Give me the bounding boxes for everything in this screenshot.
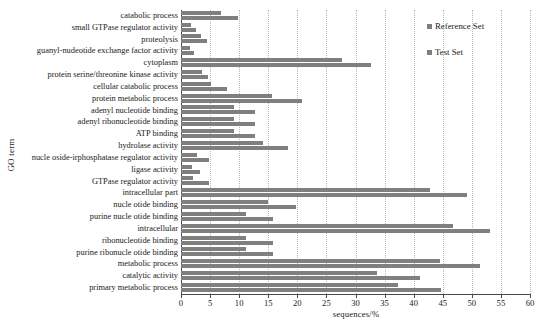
bar-test-set (181, 28, 196, 32)
bar-reference-set (181, 247, 246, 251)
bar-reference-set (181, 200, 268, 204)
category-label: cellular catabolic process (3, 82, 181, 91)
bar-test-set (181, 264, 480, 268)
category-label: catabolic process (3, 11, 181, 20)
bar-reference-set (181, 212, 246, 216)
x-axis-tick-label: 60 (519, 298, 539, 308)
x-axis-title: sequences/% (181, 309, 531, 319)
bar-reference-set (181, 117, 234, 121)
bar-reference-set (181, 34, 201, 38)
x-axis-tick-label: 40 (403, 298, 425, 308)
category-label: guanyl-nudeotide exchange factor activit… (3, 46, 181, 55)
bar-test-set (181, 276, 420, 280)
bar-reference-set (181, 58, 342, 62)
x-axis-tick-label: 55 (490, 298, 512, 308)
bar-reference-set (181, 283, 398, 287)
bar-test-set (181, 241, 273, 245)
bar-reference-set (181, 129, 234, 133)
bar-reference-set (181, 11, 221, 15)
bar-group (181, 82, 530, 94)
bar-reference-set (181, 82, 211, 86)
x-axis-tick-label: 0 (170, 298, 192, 308)
category-label: nucle oside-irphosphatase regulator acti… (3, 153, 181, 162)
x-axis-tick-label: 15 (257, 298, 279, 308)
x-axis-tick-label: 20 (286, 298, 308, 308)
bar-reference-set (181, 23, 191, 27)
bar-reference-set (181, 94, 272, 98)
x-axis-tick-label: 50 (461, 298, 483, 308)
bar-reference-set (181, 176, 193, 180)
bar-group (181, 212, 530, 224)
category-label: ribonucleotide binding (3, 236, 181, 245)
bar-test-set (181, 193, 467, 197)
bar-group (181, 129, 530, 141)
bar-group (181, 176, 530, 188)
bar-reference-set (181, 141, 263, 145)
legend-item-reference-set: Reference Set (427, 22, 484, 31)
bar-group (181, 236, 530, 248)
category-label: protein serine/threonine kinase activity (3, 70, 181, 79)
bar-test-set (181, 99, 302, 103)
bar-group (181, 153, 530, 165)
legend-swatch-icon (427, 50, 432, 55)
category-label: adenyl ribonucleotide binding (3, 117, 181, 126)
bar-group (181, 271, 530, 283)
x-axis-tick-label: 30 (345, 298, 367, 308)
category-label: intracellular (3, 224, 181, 233)
category-label: GTPase regulator activity (3, 177, 181, 186)
category-label: metabolic process (3, 259, 181, 268)
gridline (530, 10, 531, 294)
legend-item-test-set: Test Set (427, 48, 484, 57)
bar-reference-set (181, 105, 234, 109)
x-axis-tick-label: 25 (315, 298, 337, 308)
bar-group (181, 165, 530, 177)
bar-reference-set (181, 165, 192, 169)
bar-group (181, 259, 530, 271)
bar-group (181, 188, 530, 200)
bar-test-set (181, 229, 490, 233)
bar-test-set (181, 134, 255, 138)
legend-label: Reference Set (435, 22, 484, 31)
bar-test-set (181, 39, 207, 43)
category-label: small GTPase regulator activity (3, 23, 181, 32)
bar-reference-set (181, 46, 190, 50)
bar-reference-set (181, 153, 197, 157)
bar-group (181, 117, 530, 129)
bar-test-set (181, 110, 255, 114)
bar-group (181, 283, 530, 295)
bar-test-set (181, 87, 227, 91)
chart-legend: Reference Set Test Set (427, 22, 484, 74)
legend-swatch-icon (427, 24, 432, 29)
bar-reference-set (181, 188, 430, 192)
bar-group (181, 247, 530, 259)
bar-test-set (181, 146, 288, 150)
bar-group (181, 105, 530, 117)
bar-test-set (181, 205, 296, 209)
category-label: nucle otide binding (3, 200, 181, 209)
category-label: ligase activity (3, 165, 181, 174)
bar-test-set (181, 51, 194, 55)
category-label: purine ribonucle otide binding (3, 248, 181, 257)
bar-test-set (181, 252, 273, 256)
bar-test-set (181, 158, 209, 162)
bar-group (181, 200, 530, 212)
category-label: intracellular part (3, 188, 181, 197)
bar-reference-set (181, 236, 246, 240)
x-axis-tick-label: 5 (199, 298, 221, 308)
category-label: ATP binding (3, 129, 181, 138)
bar-group (181, 224, 530, 236)
category-label: purine nucle otide binding (3, 212, 181, 221)
bar-test-set (181, 217, 273, 221)
x-axis-tick-label: 45 (432, 298, 454, 308)
bar-test-set (181, 181, 209, 185)
category-label: catalytic activity (3, 271, 181, 280)
category-label: primary metabolic process (3, 283, 181, 292)
bar-reference-set (181, 271, 377, 275)
bar-group (181, 141, 530, 153)
category-label: cytoplasm (3, 58, 181, 67)
bar-test-set (181, 75, 208, 79)
bar-reference-set (181, 70, 202, 74)
category-label: adenyl nucleotide binding (3, 106, 181, 115)
category-label: protein metabolic process (3, 94, 181, 103)
bar-test-set (181, 16, 238, 20)
